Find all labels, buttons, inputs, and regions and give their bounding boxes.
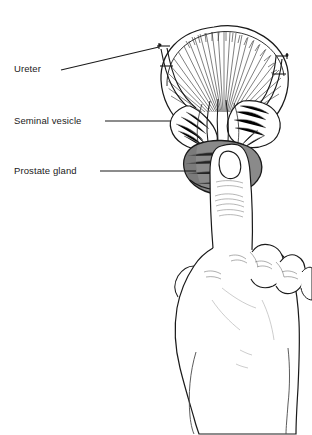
label-prostate-gland: Prostate gland bbox=[14, 166, 77, 176]
label-seminal-vesicle: Seminal vesicle bbox=[14, 116, 82, 126]
label-ureter: Ureter bbox=[14, 64, 41, 74]
fingernail bbox=[219, 151, 241, 178]
anatomy-illustration bbox=[0, 0, 312, 435]
ring-finger bbox=[276, 255, 305, 294]
prostate-examination-figure: Ureter Seminal vesicle Prostate gland bbox=[0, 0, 312, 435]
little-finger bbox=[301, 267, 312, 300]
examining-hand bbox=[175, 144, 312, 434]
leader-line-ureter bbox=[61, 47, 159, 70]
